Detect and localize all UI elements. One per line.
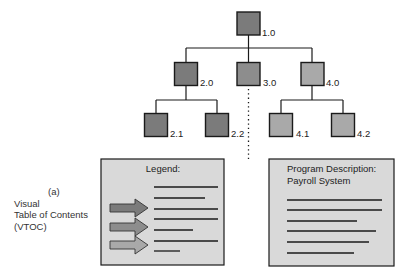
- module-box-3-0: [237, 63, 260, 86]
- caption-line-2: Table of Contents: [14, 209, 88, 221]
- module-box-2-1: [145, 114, 168, 137]
- module-label-3-0: 3.0: [263, 77, 276, 88]
- caption-line-1: Visual: [14, 198, 40, 210]
- module-box-1-0: [237, 12, 260, 35]
- module-label-1-0: 1.0: [262, 27, 275, 38]
- module-label-2-1: 2.1: [170, 128, 183, 139]
- program-title-line1: Program Description:: [287, 163, 376, 174]
- module-box-2-2: [206, 114, 229, 137]
- legend-panel: Legend:: [101, 159, 224, 265]
- module-box-4-2: [332, 114, 355, 137]
- caption-line-3: (VTOC): [14, 221, 47, 233]
- module-label-4-2: 4.2: [357, 128, 370, 139]
- module-label-4-1: 4.1: [296, 128, 309, 139]
- legend-title: Legend:: [146, 163, 180, 174]
- module-label-2-2: 2.2: [231, 128, 244, 139]
- module-box-2-0: [175, 63, 198, 86]
- module-label-4-0: 4.0: [326, 77, 339, 88]
- module-label-2-0: 2.0: [200, 77, 213, 88]
- program-title-line2: Payroll System: [287, 175, 350, 186]
- program-description-panel: Program Description: Payroll System: [269, 159, 394, 266]
- vtoc-diagram: 1.0 2.0 3.0 4.0 2.1 2.2 4.1 4.2 Legend: …: [0, 0, 408, 280]
- caption-marker: (a): [48, 186, 60, 198]
- module-box-4-1: [270, 114, 293, 137]
- module-box-4-0: [301, 63, 324, 86]
